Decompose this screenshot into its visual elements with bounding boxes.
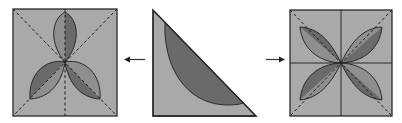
arrow-right-icon	[266, 57, 285, 63]
right-unfolded-square	[290, 10, 392, 116]
arrow-left-icon	[124, 57, 145, 63]
folding-diagram	[0, 0, 402, 123]
folded-triangle	[153, 10, 256, 116]
left-unfolded-square	[13, 9, 117, 116]
